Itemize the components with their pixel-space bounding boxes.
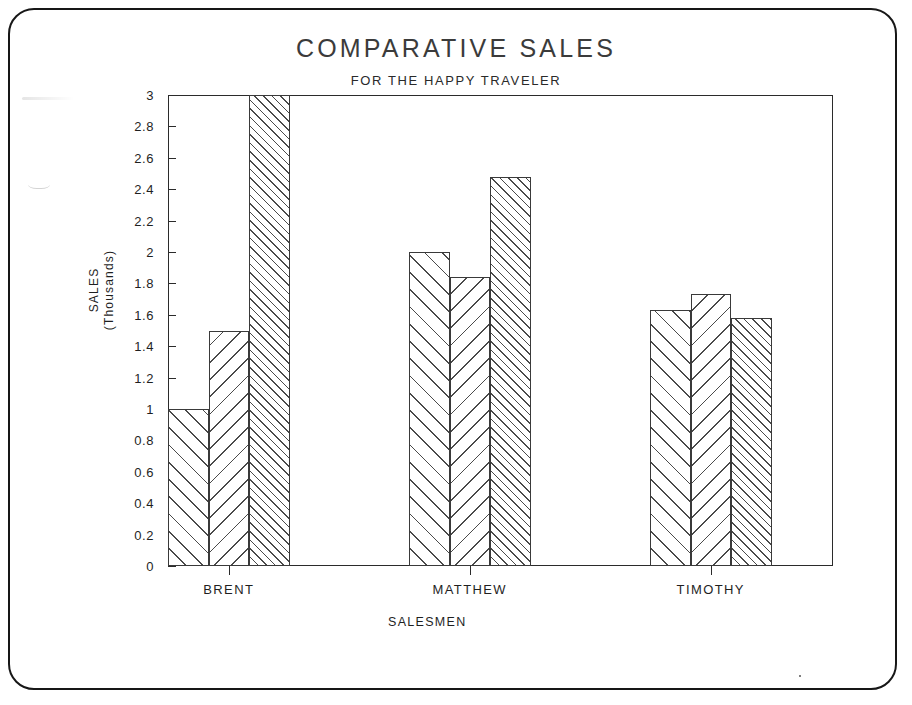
bar [209, 331, 250, 567]
y-axis-tick-mark [168, 566, 176, 567]
y-axis-tick-label: 2.4 [106, 182, 154, 197]
x-axis-tick-label: BRENT [149, 582, 309, 597]
y-axis-tick-label: 1.6 [106, 307, 154, 322]
scan-artifact-speck [799, 675, 801, 677]
bar [490, 177, 531, 566]
bar [691, 294, 732, 566]
scan-artifact-smudge [22, 97, 74, 100]
y-axis-tick-label: 1.2 [106, 370, 154, 385]
chart-subtitle: FOR THE HAPPY TRAVELER [0, 73, 912, 88]
bar [650, 310, 691, 566]
chart-title: COMPARATIVE SALES [0, 34, 912, 63]
bar [731, 318, 772, 566]
y-axis-tick-mark [168, 252, 176, 253]
y-axis-tick-label: 2.2 [106, 213, 154, 228]
y-axis-tick-mark [168, 221, 176, 222]
y-axis-tick-label: 0.8 [106, 433, 154, 448]
bar [168, 409, 209, 566]
y-axis-tick-label: 1.8 [106, 276, 154, 291]
y-axis-title-line1: SALES [87, 230, 102, 350]
y-axis-tick-label: 0.2 [106, 527, 154, 542]
y-axis-tick-label: 1 [106, 402, 154, 417]
bar [409, 252, 450, 566]
y-axis-tick-mark [168, 315, 176, 316]
scan-artifact-smudge [28, 178, 50, 189]
y-axis-tick-label: 2.6 [106, 150, 154, 165]
y-axis-tick-label: 2 [106, 245, 154, 260]
y-axis-tick-mark [168, 95, 176, 96]
bar [450, 277, 491, 566]
y-axis-tick-label: 0.4 [106, 496, 154, 511]
y-axis-tick-mark [168, 346, 176, 347]
y-axis-tick-mark [168, 189, 176, 190]
y-axis-tick-label: 0 [106, 559, 154, 574]
y-axis-tick-label: 2.8 [106, 119, 154, 134]
y-axis-tick-label: 0.6 [106, 464, 154, 479]
chart-legend: PORTLANDDENVERLOS ANGELES [0, 616, 912, 656]
bar [249, 95, 290, 566]
y-axis-tick-label: 3 [106, 88, 154, 103]
x-axis-tick-mark [229, 566, 230, 575]
y-axis-tick-mark [168, 283, 176, 284]
y-axis-tick-mark [168, 378, 176, 379]
x-axis-tick-mark [470, 566, 471, 575]
plot-area [168, 95, 833, 566]
y-axis-tick-mark [168, 126, 176, 127]
y-axis-tick-label: 1.4 [106, 339, 154, 354]
y-axis-tick-mark [168, 158, 176, 159]
x-axis-tick-mark [711, 566, 712, 575]
x-axis-tick-label: TIMOTHY [631, 582, 791, 597]
x-axis-tick-label: MATTHEW [390, 582, 550, 597]
